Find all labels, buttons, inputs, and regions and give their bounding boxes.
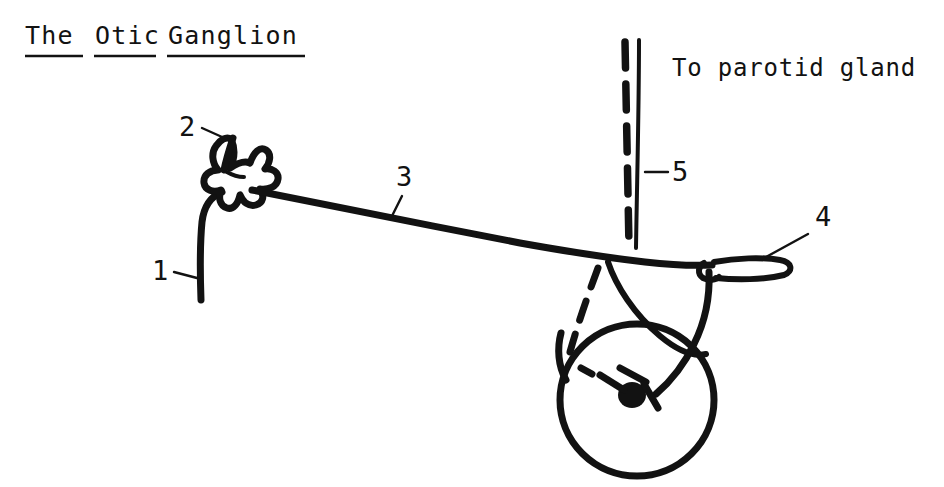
title-word-otic: Otic	[95, 21, 160, 50]
otic-ganglion-diagram: The Otic Ganglion To parotid gland	[0, 0, 944, 487]
title-word-ganglion: Ganglion	[168, 21, 298, 50]
label-3-text: 3	[396, 161, 412, 192]
title-word-the: The	[25, 21, 74, 50]
caption-to-parotid-gland: To parotid gland	[672, 54, 916, 82]
label-1-text: 1	[152, 255, 168, 286]
label-2-text: 2	[179, 111, 195, 142]
label-4-text: 4	[815, 201, 831, 232]
label-5-text: 5	[672, 156, 688, 187]
